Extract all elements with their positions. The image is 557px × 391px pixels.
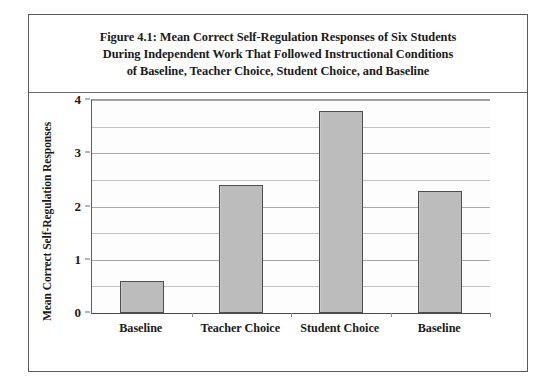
figure-frame: Figure 4.1: Mean Correct Self-Regulation… (28, 14, 528, 372)
x-axis-tick-label: Baseline (418, 321, 461, 336)
y-axis-tick-label: 0 (75, 306, 82, 319)
bar-student-choice-2[interactable] (319, 111, 363, 313)
gridline-minor-2 (92, 180, 490, 181)
y-axis-tick-mark (85, 152, 90, 153)
plot-area (91, 99, 490, 314)
gridline-minor-3 (92, 127, 490, 128)
x-axis-tick-label: Student Choice (300, 321, 379, 336)
y-axis-tick-label: 2 (75, 199, 82, 212)
x-axis-tick-label: Teacher Choice (200, 321, 280, 336)
x-axis-tick-mark (391, 313, 392, 317)
bar-baseline-0[interactable] (120, 281, 164, 313)
x-axis-tick-mark (291, 313, 292, 317)
bar-teacher-choice-1[interactable] (219, 185, 263, 313)
bar-baseline-3[interactable] (418, 191, 462, 313)
x-axis-tick-mark (192, 313, 193, 317)
y-axis-title-text: Mean Correct Self-Regulation Responses (42, 121, 55, 320)
figure-caption-line-1: Figure 4.1: Mean Correct Self-Regulation… (100, 29, 457, 46)
y-axis-tick-label: 3 (75, 146, 82, 159)
y-axis-tick-mark (85, 258, 90, 259)
y-axis-tick-mark (85, 312, 90, 313)
y-axis-tick-mark (85, 99, 90, 100)
figure-caption-line-2: During Independent Work That Followed In… (103, 46, 453, 63)
y-axis-title: Mean Correct Self-Regulation Responses (39, 105, 57, 337)
figure-caption: Figure 4.1: Mean Correct Self-Regulation… (29, 15, 527, 93)
y-axis-tick-label: 1 (75, 252, 82, 265)
y-axis-tick-labels: 01234 (59, 99, 85, 312)
x-axis-tick-mark (490, 313, 491, 317)
y-axis-tick-label: 4 (75, 93, 82, 106)
figure-caption-line-3: of Baseline, Teacher Choice, Student Cho… (127, 63, 430, 80)
y-axis-tick-mark (85, 205, 90, 206)
x-axis-tick-label: Baseline (119, 321, 162, 336)
x-axis-tick-labels: BaselineTeacher ChoiceStudent ChoiceBase… (91, 321, 489, 343)
bar-chart: Mean Correct Self-Regulation Responses 0… (29, 93, 527, 371)
gridline-major-4 (92, 100, 490, 101)
gridline-major-3 (92, 153, 490, 154)
